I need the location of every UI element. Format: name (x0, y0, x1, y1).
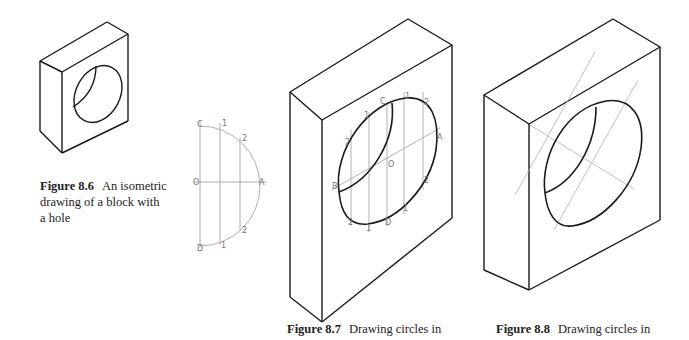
label-2-bottom: 2 (242, 226, 247, 235)
caption-label: Figure 8.6 (40, 179, 94, 193)
label-a: A (259, 178, 265, 187)
drawing-canvas: C 1 2 O A 2 D 1 C 1 2 1 2 A O B 2 (0, 0, 689, 340)
label-1: 1 (366, 224, 371, 233)
label-2: 2 (424, 176, 429, 185)
label-1: 1 (405, 92, 410, 101)
caption-text-line-1: Drawing circles in (349, 322, 441, 336)
caption-label: Figure 8.8 (496, 322, 550, 336)
figure-8-6-block (40, 22, 132, 153)
label-1: 1 (364, 111, 369, 120)
label-o: O (193, 178, 199, 187)
label-2: 2 (348, 218, 353, 227)
label-2: 2 (345, 138, 350, 147)
caption-figure-8-8: Figure 8.8Drawing circles in (496, 321, 689, 337)
label-o: O (388, 160, 394, 169)
label-2-top: 2 (242, 134, 247, 143)
figure-8-7-block (290, 19, 452, 322)
semicircle-labels: C 1 2 O A 2 D 1 (193, 119, 265, 253)
label-1-bottom: 1 (221, 241, 226, 250)
caption-figure-8-6: Figure 8.6An isometric drawing of a bloc… (40, 178, 180, 226)
caption-label: Figure 8.7 (287, 322, 341, 336)
caption-text-line-1: Drawing circles in (558, 322, 650, 336)
label-2: 2 (424, 98, 429, 107)
label-b: B (332, 182, 338, 191)
figure-8-7-construction (331, 92, 440, 232)
figure-8-7-labels: C 1 2 1 2 A O B 2 1 2 1 D (332, 92, 443, 233)
figure-8-8-block (484, 19, 660, 290)
caption-figure-8-7: Figure 8.7Drawing circles in (287, 321, 487, 337)
label-1: 1 (403, 204, 408, 213)
label-c: C (197, 120, 203, 129)
caption-text-line-1: An isometric (102, 179, 167, 193)
label-1-top: 1 (222, 119, 227, 128)
label-a: A (437, 133, 443, 142)
label-d: D (197, 244, 203, 253)
caption-text-line-3: a hole (40, 211, 70, 225)
label-c: C (380, 97, 386, 106)
label-d: D (385, 218, 391, 227)
figure-8-8-construction (515, 52, 638, 230)
semicircle-construction (194, 120, 266, 248)
caption-text-line-2: drawing of a block with (40, 195, 159, 209)
